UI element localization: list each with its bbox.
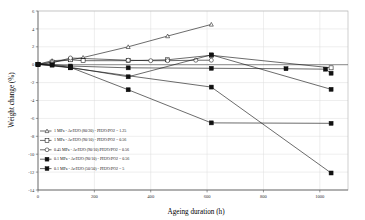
- legend-label: 1 MPa - Ar/H2O (80/20) - PH2O/PO2 = 1.25: [54, 128, 126, 133]
- data-point-marker: [68, 66, 72, 70]
- y-tick-label: -8: [31, 134, 36, 139]
- data-series: [36, 62, 333, 125]
- legend-label: 1 MPa - Ar/H2O (90/10) - PH2O/PO2 = 0.56: [54, 137, 126, 142]
- data-point-marker: [36, 62, 40, 66]
- x-tick-label: 600: [204, 194, 212, 199]
- x-tick-label: 400: [147, 194, 155, 199]
- y-tick-label: -4: [31, 98, 36, 103]
- legend-item: 0.1 MPa - Ar/H2O (90/10) - PH2O/PO2 = 0.…: [40, 156, 129, 161]
- x-tick-label: 0: [37, 194, 40, 199]
- data-point-marker: [329, 87, 333, 91]
- legend-item: 1 MPa - Ar/H2O (90/10) - PH2O/PO2 = 0.56: [40, 137, 126, 142]
- y-axis-title: Weight change (%): [8, 72, 16, 128]
- x-axis: 02004006008001000: [37, 190, 348, 199]
- data-point-marker: [329, 71, 333, 75]
- data-point-marker: [329, 121, 333, 125]
- data-point-marker: [166, 59, 170, 63]
- data-point-marker: [329, 66, 333, 70]
- data-point-marker: [45, 167, 49, 171]
- data-point-marker: [209, 85, 213, 89]
- weight-change-chart: 6420-2-4-6-8-10-12-14 02004006008001000 …: [0, 0, 365, 220]
- data-point-marker: [126, 88, 130, 92]
- legend-item: 0.1 MPa - Ar/H2O (50/50) - PH2O/PO2 = 5: [40, 166, 124, 171]
- x-axis-title: Ageing duration (h): [167, 208, 225, 216]
- legend-label: 0.45 MPa - Ar/H2O (90/10) PH2O/PO2 = 0.5…: [54, 147, 129, 152]
- data-point-marker: [50, 63, 54, 67]
- data-point-marker: [209, 66, 213, 70]
- data-point-marker: [126, 58, 130, 62]
- legend-label: 0.1 MPa - Ar/H2O (50/50) - PH2O/PO2 = 5: [54, 166, 124, 171]
- y-tick-label: -6: [31, 116, 36, 121]
- data-point-marker: [45, 148, 49, 152]
- x-tick-label: 200: [91, 194, 99, 199]
- y-tick-label: 4: [32, 27, 35, 32]
- data-point-marker: [284, 67, 288, 71]
- series-layer: [36, 22, 333, 175]
- legend-item: 0.45 MPa - Ar/H2O (90/10) PH2O/PO2 = 0.5…: [40, 147, 129, 152]
- data-point-marker: [209, 53, 213, 57]
- y-tick-label: -2: [31, 80, 36, 85]
- y-axis: 6420-2-4-6-8-10-12-14: [28, 9, 38, 193]
- y-tick-label: -14: [28, 188, 35, 193]
- data-point-marker: [209, 22, 213, 26]
- chart-container: 6420-2-4-6-8-10-12-14 02004006008001000 …: [0, 0, 365, 220]
- x-tick-label: 800: [260, 194, 268, 199]
- legend-item: 1 MPa - Ar/H2O (80/20) - PH2O/PO2 = 1.25: [40, 128, 126, 133]
- data-point-marker: [45, 157, 49, 161]
- y-tick-label: 2: [32, 44, 35, 49]
- grid-layer: [38, 11, 348, 190]
- x-tick-label: 1000: [315, 194, 325, 199]
- data-point-marker: [81, 59, 85, 63]
- data-point-marker: [209, 58, 213, 62]
- y-tick-label: -12: [28, 170, 35, 175]
- data-point-marker: [126, 66, 130, 70]
- y-tick-label: -10: [28, 152, 35, 157]
- data-point-marker: [45, 139, 49, 143]
- data-point-marker: [68, 56, 72, 60]
- data-series: [36, 53, 333, 70]
- data-point-marker: [149, 59, 153, 63]
- y-tick-label: 6: [32, 9, 35, 14]
- y-tick-label: 0: [32, 62, 35, 67]
- data-point-marker: [209, 121, 213, 125]
- legend-label: 0.1 MPa - Ar/H2O (90/10) - PH2O/PO2 = 0.…: [54, 156, 129, 161]
- data-point-marker: [329, 171, 333, 175]
- data-point-marker: [323, 67, 327, 71]
- chart-legend: 1 MPa - Ar/H2O (80/20) - PH2O/PO2 = 1.25…: [40, 128, 129, 171]
